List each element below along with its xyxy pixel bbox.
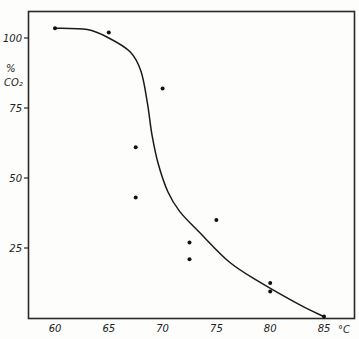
data-point <box>268 281 272 285</box>
data-point <box>214 218 218 222</box>
data-point <box>134 145 138 149</box>
data-point <box>161 86 165 90</box>
x-tick-label: 65 <box>102 323 115 334</box>
y-tick-label: 25 <box>9 243 22 254</box>
chart: 255075100 606570758085 % CO₂ °C <box>0 0 359 339</box>
data-point <box>107 30 111 34</box>
y-tick-label: 50 <box>9 173 22 184</box>
data-point <box>322 315 326 319</box>
x-tick-label: 70 <box>156 323 169 334</box>
y-axis-label-percent: % <box>6 63 16 74</box>
x-tick-label: 80 <box>264 323 277 334</box>
x-tick-label: 85 <box>318 323 331 334</box>
data-point <box>188 240 192 244</box>
fitted-curve <box>55 28 324 316</box>
y-axis-label: % CO₂ <box>4 63 23 88</box>
data-point <box>134 196 138 200</box>
x-tick-label: 60 <box>49 323 62 334</box>
data-point <box>53 26 57 30</box>
x-axis-label: °C <box>338 324 350 335</box>
y-tick-label: 100 <box>3 33 22 44</box>
plot-frame <box>29 12 355 319</box>
data-points <box>53 26 326 318</box>
y-axis-label-co2: CO₂ <box>4 77 23 88</box>
data-point <box>268 289 272 293</box>
y-tick-label: 75 <box>9 103 22 114</box>
data-point <box>188 257 192 261</box>
x-axis-ticks: 606570758085 <box>49 323 331 334</box>
x-tick-label: 75 <box>210 323 223 334</box>
